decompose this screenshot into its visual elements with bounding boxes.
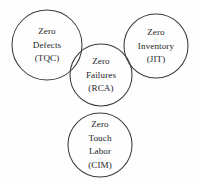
label-zero-defects: Zero Defects (TQC) <box>33 26 62 63</box>
label-zero-touch-labor-line3: Labor <box>89 146 111 156</box>
label-zero-touch-labor-line4: (CIM) <box>88 160 112 170</box>
label-zero-defects-line1: Zero <box>38 26 56 36</box>
venn-diagram-canvas: Zero Defects (TQC) Zero Inventory (JIT) … <box>0 0 200 187</box>
label-zero-touch-labor: Zero Touch Labor (CIM) <box>88 119 112 170</box>
label-zero-touch-labor-line1: Zero <box>91 119 109 129</box>
label-zero-inventory-line2: Inventory <box>138 41 175 51</box>
label-zero-failures-line2: Failures <box>86 70 116 80</box>
label-zero-defects-line2: Defects <box>33 40 62 50</box>
label-zero-inventory-line1: Zero <box>147 27 165 37</box>
label-zero-failures-line3: (RCA) <box>88 83 113 93</box>
label-zero-inventory: Zero Inventory (JIT) <box>138 27 175 64</box>
label-zero-defects-line3: (TQC) <box>35 53 60 63</box>
label-zero-inventory-line3: (JIT) <box>147 54 166 64</box>
label-zero-touch-labor-line2: Touch <box>88 133 111 143</box>
venn-diagram: Zero Defects (TQC) Zero Inventory (JIT) … <box>0 0 200 187</box>
label-zero-failures-line1: Zero <box>92 56 110 66</box>
label-zero-failures: Zero Failures (RCA) <box>86 56 116 93</box>
